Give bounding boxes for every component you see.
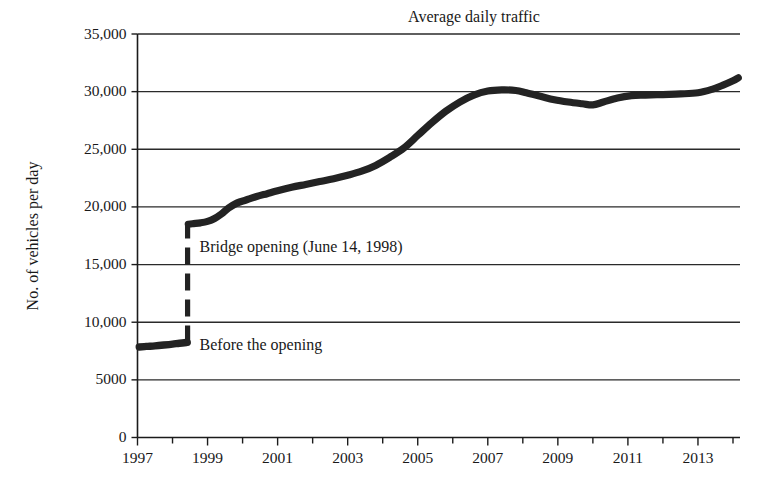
x-axis-tick-labels: 199719992001200320052007200920112013 bbox=[122, 449, 714, 466]
y-tick-label-10000: 10,000 bbox=[84, 313, 127, 330]
average-daily-traffic-line-chart: Average daily traffic No. of vehicles pe… bbox=[0, 0, 775, 496]
annotation-bridge-opening: Bridge opening (June 14, 1998) bbox=[200, 238, 403, 256]
x-tick-label-2009: 2009 bbox=[542, 449, 573, 466]
y-tick-label-20000: 20,000 bbox=[84, 197, 127, 214]
y-axis-title: No. of vehicles per day bbox=[24, 162, 42, 311]
x-tick-label-2005: 2005 bbox=[402, 449, 433, 466]
y-tick-label-25000: 25,000 bbox=[84, 140, 127, 157]
x-tick-label-2003: 2003 bbox=[332, 449, 363, 466]
y-tick-label-30000: 30,000 bbox=[84, 82, 127, 99]
y-tick-label-15000: 15,000 bbox=[84, 255, 127, 272]
x-tick-label-2013: 2013 bbox=[682, 449, 713, 466]
x-tick-label-1997: 1997 bbox=[122, 449, 153, 466]
chart-figure: Average daily traffic No. of vehicles pe… bbox=[0, 0, 775, 496]
y-tick-label-0: 0 bbox=[119, 428, 127, 445]
x-tick-label-2007: 2007 bbox=[472, 449, 503, 466]
x-tick-label-2001: 2001 bbox=[262, 449, 293, 466]
x-tick-label-1999: 1999 bbox=[192, 449, 223, 466]
series-line-before-opening bbox=[139, 342, 187, 347]
y-tick-label-35000: 35,000 bbox=[84, 25, 127, 42]
annotation-before-the-opening: Before the opening bbox=[200, 336, 323, 354]
y-tick-label-5000: 5000 bbox=[96, 370, 127, 387]
x-tick-label-2011: 2011 bbox=[613, 449, 643, 466]
chart-title: Average daily traffic bbox=[408, 8, 540, 26]
